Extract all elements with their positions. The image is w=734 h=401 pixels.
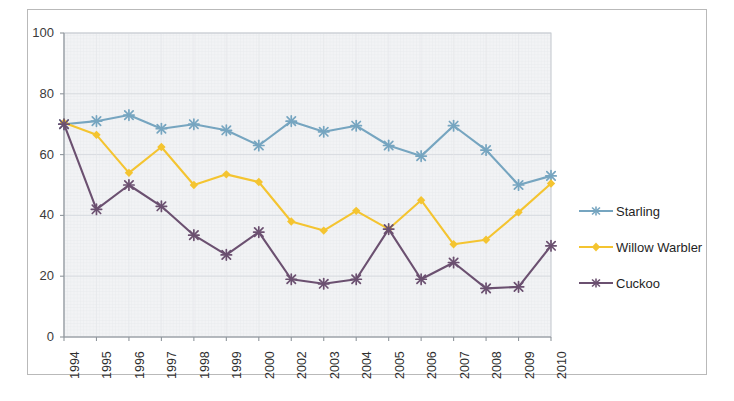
legend-label-cuckoo: Cuckoo	[616, 276, 660, 291]
x-tick-label: 1997	[166, 351, 178, 379]
x-tick-label: 1995	[101, 351, 113, 379]
chart-legend: Starling Willow Warbler	[578, 193, 728, 301]
legend-item-starling[interactable]: Starling	[578, 193, 728, 229]
legend-key-cuckoo	[578, 276, 614, 290]
legend-item-willow-warbler[interactable]: Willow Warbler	[578, 229, 728, 265]
x-tick-label: 1999	[231, 351, 243, 379]
chart-screenshot: 100806040200 199419951996199719981999200…	[0, 0, 734, 401]
x-tick-label: 1998	[199, 351, 211, 379]
y-tick-label: 80	[18, 87, 54, 100]
y-tick-label: 20	[18, 269, 54, 282]
x-tick-label: 2003	[329, 351, 341, 379]
x-tick-label: 2007	[459, 351, 471, 379]
legend-label-starling: Starling	[616, 204, 660, 219]
plot-background	[64, 33, 551, 337]
y-tick-label: 40	[18, 208, 54, 221]
x-tick-label: 1994	[69, 351, 81, 379]
x-tick-label: 2000	[264, 351, 276, 379]
x-tick-label: 2009	[524, 351, 536, 379]
x-tick-label: 2002	[296, 351, 308, 379]
x-tick-label: 2008	[491, 351, 503, 379]
y-tick-label: 100	[18, 26, 54, 39]
y-tick-label: 60	[18, 148, 54, 161]
legend-key-willow-warbler	[578, 240, 614, 254]
x-tick-label: 1996	[134, 351, 146, 379]
legend-label-willow-warbler: Willow Warbler	[616, 240, 702, 255]
x-tick-label: 2005	[394, 351, 406, 379]
legend-item-cuckoo[interactable]: Cuckoo	[578, 265, 728, 301]
y-tick-label: 0	[18, 330, 54, 343]
legend-key-starling	[578, 204, 614, 218]
x-tick-label: 2004	[361, 351, 373, 379]
x-tick-label: 2006	[426, 351, 438, 379]
x-tick-label: 2010	[556, 351, 568, 379]
